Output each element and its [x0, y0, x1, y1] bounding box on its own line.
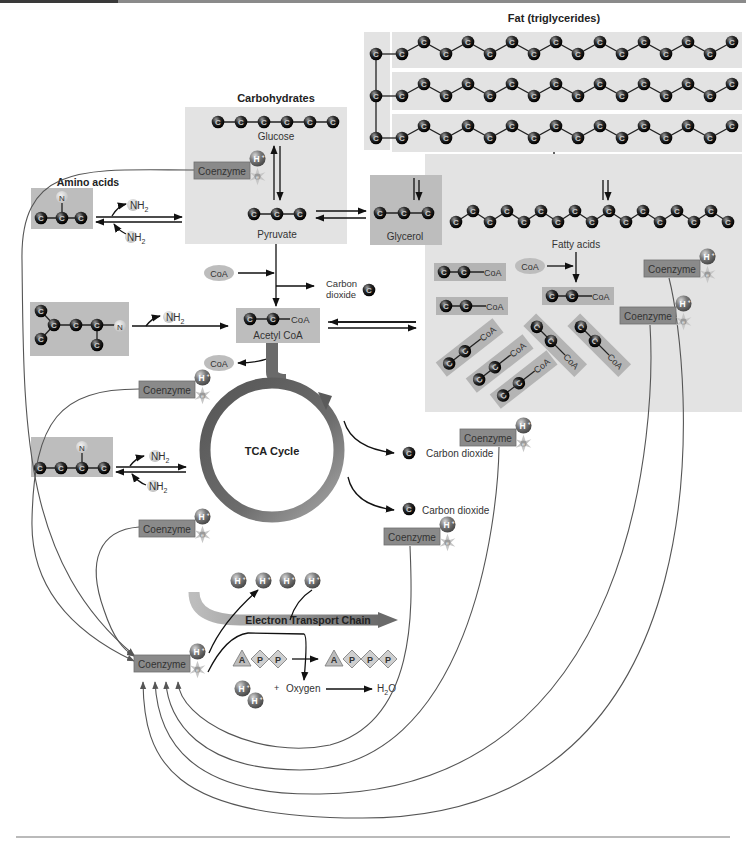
- svg-text:NH2: NH2: [127, 232, 145, 245]
- nh2-in-1: NH2: [125, 231, 145, 245]
- svg-text:N: N: [59, 194, 65, 203]
- svg-text:Coenzyme: Coenzyme: [388, 532, 436, 543]
- amino-acids-section-1: Amino acids N NH2 NH2: [31, 176, 182, 245]
- carbohydrates-title: Carbohydrates: [237, 92, 315, 104]
- svg-text:Coenzyme: Coenzyme: [143, 524, 191, 535]
- svg-text:CoA: CoA: [486, 302, 504, 312]
- coenzyme-5: Coenzyme: [460, 417, 532, 452]
- svg-text:dioxide: dioxide: [326, 289, 356, 300]
- proton-icon: [515, 417, 531, 433]
- svg-text:NH2: NH2: [151, 451, 169, 464]
- fat-title: Fat (triglycerides): [508, 12, 601, 24]
- proton-icon: [249, 150, 265, 166]
- svg-text:CoA: CoA: [291, 314, 310, 325]
- svg-text:A: A: [331, 655, 338, 665]
- electron-transport-chain: Electron Transport Chain APP APPP + Oxyg…: [194, 572, 398, 708]
- svg-text:CoA: CoA: [484, 268, 502, 278]
- svg-text:NH2: NH2: [166, 312, 184, 325]
- nh2-out-1: NH2: [127, 199, 148, 213]
- svg-text:N: N: [79, 444, 85, 453]
- coenzyme-2: Coenzyme: [139, 369, 211, 404]
- proton-icon: [439, 516, 455, 532]
- svg-text:P: P: [275, 655, 281, 665]
- electron-icon: [516, 435, 532, 452]
- proton-icon: [189, 643, 205, 659]
- svg-text:NH2: NH2: [149, 481, 167, 494]
- acetyl-coa-group: CoA Acetyl CoA: [236, 308, 320, 343]
- proton-icon: [675, 295, 691, 311]
- coenzyme-8: Coenzyme: [134, 643, 206, 678]
- nh2-label: NH2: [130, 200, 148, 213]
- etc-label: Electron Transport Chain: [245, 614, 370, 626]
- svg-text:+: +: [274, 683, 279, 693]
- svg-text:Coenzyme: Coenzyme: [198, 166, 246, 177]
- glycerol-group: Glycerol: [370, 175, 442, 245]
- co2-label-3: Carbon dioxide: [422, 505, 490, 516]
- svg-text:Coenzyme: Coenzyme: [624, 311, 672, 322]
- svg-text:P: P: [385, 655, 391, 665]
- tca-label: TCA Cycle: [245, 445, 300, 457]
- svg-text:CoA: CoA: [210, 359, 228, 369]
- svg-text:CoA: CoA: [592, 292, 610, 302]
- coenzyme-4: Coenzyme: [384, 516, 456, 551]
- co2-label-2: Carbon dioxide: [426, 448, 494, 459]
- svg-text:CoA: CoA: [210, 269, 228, 279]
- fat-section: Fat (triglycerides): [364, 12, 742, 178]
- adp: APP: [233, 650, 287, 668]
- svg-text:CoA: CoA: [521, 262, 539, 272]
- electron-icon: [190, 661, 206, 678]
- svg-text:P: P: [257, 655, 263, 665]
- glycerol-label: Glycerol: [387, 231, 424, 242]
- svg-text:Coenzyme: Coenzyme: [143, 385, 191, 396]
- svg-text:N: N: [117, 323, 123, 332]
- amino-acids-section-3: N NH2 NH2: [31, 437, 186, 494]
- electron-icon: [195, 526, 211, 543]
- atp: APPP: [325, 650, 397, 668]
- svg-text:A: A: [239, 655, 246, 665]
- svg-text:Coenzyme: Coenzyme: [138, 659, 186, 670]
- amino-acids-section-2: N NH2: [30, 302, 228, 356]
- metabolism-diagram: C H + e Fat (triglycerides): [0, 0, 746, 846]
- co2-label-1: Carbon: [326, 278, 357, 289]
- pyruvate-label: Pyruvate: [257, 229, 297, 240]
- proton-icon: [699, 248, 715, 264]
- coenzyme-3: Coenzyme: [139, 508, 211, 543]
- svg-text:P: P: [349, 655, 355, 665]
- electron-icon: [440, 534, 456, 551]
- acetyl-coa-label: Acetyl CoA: [253, 330, 303, 341]
- glucose-label: Glucose: [258, 131, 295, 142]
- svg-text:Coenzyme: Coenzyme: [648, 264, 696, 275]
- proton-icon: [194, 508, 210, 524]
- proton-icon: [194, 369, 210, 385]
- fatty-acids-label: Fatty acids: [552, 239, 600, 250]
- electron-icon: [195, 387, 211, 404]
- svg-text:P: P: [367, 655, 373, 665]
- svg-text:Coenzyme: Coenzyme: [464, 433, 512, 444]
- oxygen-label: Oxygen: [286, 683, 320, 694]
